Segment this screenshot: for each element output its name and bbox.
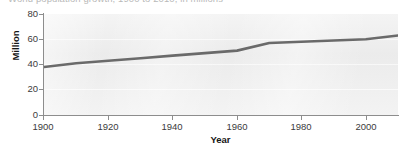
y-tick-80: 80	[18, 9, 38, 19]
chart-title-text: World population growth, 1900 to 2010, i…	[8, 0, 223, 4]
y-tick-40: 40	[18, 59, 38, 69]
plot-area	[44, 14, 398, 115]
chart-figure: World population growth, 1900 to 2010, i…	[0, 0, 411, 151]
y-tickmark-80	[39, 14, 44, 15]
y-tickmark-20	[39, 89, 44, 90]
x-tick-1960: 1960	[217, 121, 257, 132]
x-tick-1940: 1940	[152, 121, 192, 132]
x-axis-line	[43, 115, 399, 116]
population-line-series	[44, 14, 398, 115]
x-tick-1980: 1980	[281, 121, 321, 132]
x-tick-1920: 1920	[88, 121, 128, 132]
y-tick-20: 20	[18, 84, 38, 94]
x-axis-label: Year	[0, 134, 411, 145]
x-tickmark-1920	[108, 116, 109, 120]
y-tick-0: 0	[18, 110, 38, 120]
y-tickmark-40	[39, 64, 44, 65]
chart-title-clipped: World population growth, 1900 to 2010, i…	[0, 0, 411, 7]
y-tickmark-60	[39, 39, 44, 40]
x-tickmark-1940	[172, 116, 173, 120]
x-tick-2000: 2000	[346, 121, 386, 132]
x-tick-1900: 1900	[23, 121, 63, 132]
y-tick-60: 60	[18, 34, 38, 44]
x-tickmark-1900	[43, 116, 44, 120]
x-tickmark-2000	[366, 116, 367, 120]
x-tickmark-1960	[237, 116, 238, 120]
x-tickmark-1980	[301, 116, 302, 120]
